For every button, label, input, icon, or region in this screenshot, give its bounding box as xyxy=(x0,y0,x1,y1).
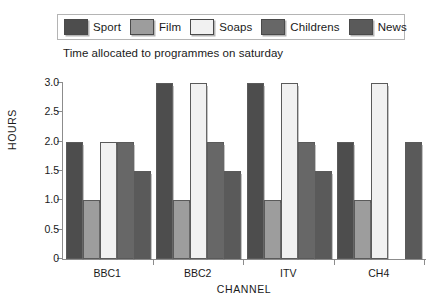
y-tick-label: 3.0 xyxy=(44,76,59,88)
legend-item-film[interactable]: Film xyxy=(130,19,181,35)
bar-bbc2-sport[interactable] xyxy=(156,83,173,259)
x-tick-mark xyxy=(153,259,154,265)
y-tick-label: 0 xyxy=(53,252,59,264)
x-tick-label-ch4: CH4 xyxy=(368,267,389,279)
bar-itv-sport[interactable] xyxy=(247,83,264,259)
bar-series-container xyxy=(63,83,425,259)
bar-bbc2-film[interactable] xyxy=(173,200,190,259)
x-tick-mark xyxy=(334,259,335,265)
legend-label: Sport xyxy=(93,21,121,33)
legend-label: Film xyxy=(159,21,181,33)
legend-item-news[interactable]: News xyxy=(349,19,407,35)
y-tick-label: 1.5 xyxy=(44,164,59,176)
bar-bbc1-film[interactable] xyxy=(83,200,100,259)
bar-bbc2-soaps[interactable] xyxy=(190,83,207,259)
x-tick-mark xyxy=(243,259,244,265)
y-tick-label: 2.5 xyxy=(44,105,59,117)
legend-swatch-sport xyxy=(64,19,88,35)
legend-label: Soaps xyxy=(219,21,252,33)
y-tick-label: 0.5 xyxy=(44,223,59,235)
x-axis-layer: CHANNEL BBC1BBC2ITVCH4 xyxy=(62,259,426,304)
bar-itv-childrens[interactable] xyxy=(298,142,315,259)
legend-swatch-film xyxy=(130,19,154,35)
bar-bbc1-childrens[interactable] xyxy=(117,142,134,259)
bar-bbc2-news[interactable] xyxy=(224,171,241,259)
x-axis-title: CHANNEL xyxy=(62,283,426,295)
bar-ch4-film[interactable] xyxy=(354,200,371,259)
legend-label: Childrens xyxy=(290,21,339,33)
y-axis-title: HOURS xyxy=(6,109,18,150)
x-tick-mark xyxy=(424,259,425,265)
bar-itv-news[interactable] xyxy=(315,171,332,259)
bar-bbc1-soaps[interactable] xyxy=(100,142,117,259)
legend-swatch-soaps xyxy=(190,19,214,35)
legend-label: News xyxy=(378,21,407,33)
x-tick-label-itv: ITV xyxy=(280,267,296,279)
x-tick-label-bbc1: BBC1 xyxy=(94,267,121,279)
legend-item-sport[interactable]: Sport xyxy=(64,19,121,35)
x-tick-label-bbc2: BBC2 xyxy=(184,267,211,279)
legend-item-childrens[interactable]: Childrens xyxy=(261,19,339,35)
bar-ch4-news[interactable] xyxy=(405,142,422,259)
legend-item-soaps[interactable]: Soaps xyxy=(190,19,252,35)
bar-ch4-sport[interactable] xyxy=(337,142,354,259)
bar-itv-soaps[interactable] xyxy=(281,83,298,259)
bar-bbc1-news[interactable] xyxy=(134,171,151,259)
y-tick-label: 1.0 xyxy=(44,193,59,205)
bar-itv-film[interactable] xyxy=(264,200,281,259)
legend-swatch-news xyxy=(349,19,373,35)
bar-bbc1-sport[interactable] xyxy=(66,142,83,259)
chart-legend: SportFilmSoapsChildrensNews xyxy=(57,14,405,40)
chart-title: Time allocated to programmes on saturday xyxy=(63,47,283,59)
bar-ch4-soaps[interactable] xyxy=(371,83,388,259)
y-tick-label: 2.0 xyxy=(44,135,59,147)
legend-swatch-childrens xyxy=(261,19,285,35)
bar-bbc2-childrens[interactable] xyxy=(207,142,224,259)
